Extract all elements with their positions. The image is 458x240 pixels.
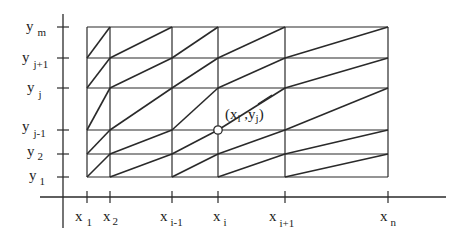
y-label-1: y1 (29, 167, 45, 187)
x-label-i-minus-1: xi-1 (160, 208, 183, 228)
triangulated-grid-diagram: (xi ,yj) ym yj+1 yj yj-1 y2 y1 x1 x2 xi-… (0, 0, 458, 240)
x-label-i: xi (213, 208, 227, 228)
y-label-2: y2 (27, 143, 43, 162)
x-label-n: xn (380, 208, 397, 228)
node-xi-yj-marker (214, 126, 222, 134)
x-label-1: x1 (75, 208, 92, 228)
x-labels: x1 x2 xi-1 xi xi+1 xn (75, 208, 397, 229)
point-label-leader (258, 95, 272, 104)
x-label-i-plus-1: xi+1 (269, 208, 294, 229)
y-label-j-plus-1: yj+1 (22, 49, 48, 70)
y-labels: ym yj+1 yj yj-1 y2 y1 (22, 18, 48, 187)
y-label-j-minus-1: yj-1 (22, 118, 46, 139)
x-label-2: x2 (103, 208, 118, 227)
y-label-j: yj (27, 79, 42, 100)
point-label: (xi ,yj) (225, 106, 264, 124)
y-label-m: ym (26, 18, 47, 38)
